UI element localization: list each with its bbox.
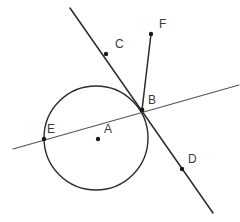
geometry-diagram: A B C D E F — [0, 0, 240, 222]
point-label-c: C — [115, 37, 124, 51]
point-label-a: A — [104, 122, 112, 136]
point-a-dot — [96, 137, 100, 141]
point-e-dot — [42, 137, 46, 141]
point-label-b: B — [148, 93, 156, 107]
geometry-canvas: A B C D E F — [0, 0, 240, 222]
point-label-e: E — [47, 122, 55, 136]
circle-A — [44, 86, 148, 190]
point-label-f: F — [159, 17, 167, 31]
point-d-dot — [180, 167, 184, 171]
point-c-dot — [104, 52, 108, 56]
point-b-dot — [140, 108, 145, 113]
point-f-dot — [149, 32, 153, 36]
point-label-d: D — [188, 152, 197, 166]
line-eb-secant — [13, 85, 239, 149]
